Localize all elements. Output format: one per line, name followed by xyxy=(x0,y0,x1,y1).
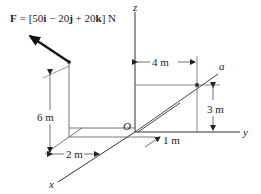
statics-diagram: 4 m 3 m 6 m 2 m 1 m z y x O a F= [50i − … xyxy=(0,0,261,194)
line-a xyxy=(135,74,218,132)
line-a-parallel xyxy=(138,103,180,132)
label-6m: 6 m xyxy=(37,111,54,123)
label-3m: 3 m xyxy=(207,103,224,115)
floor-diag xyxy=(69,128,82,137)
force-equation: F= [50i − 20j + 20k] N xyxy=(10,12,116,24)
label-z-axis: z xyxy=(132,1,138,13)
dim-1m xyxy=(145,137,160,147)
label-y-axis: y xyxy=(242,126,248,138)
force-vector xyxy=(30,36,69,62)
label-x-axis: x xyxy=(48,178,54,190)
label-line-a: a xyxy=(219,60,225,72)
label-2m: 2 m xyxy=(66,148,83,160)
label-1m: 1 m xyxy=(163,134,180,146)
label-origin: O xyxy=(123,120,131,132)
dim-6m-ext xyxy=(43,66,69,78)
force-point xyxy=(67,60,71,64)
label-4m: 4 m xyxy=(152,56,169,68)
